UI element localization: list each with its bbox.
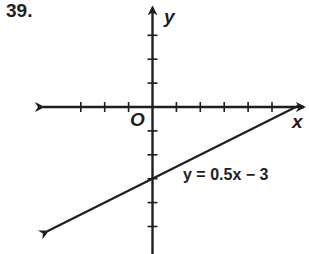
origin-label: O: [130, 109, 145, 130]
equation-label: y = 0.5x − 3: [183, 166, 269, 183]
x-axis-label: x: [291, 111, 304, 132]
y-axis-label: y: [163, 6, 176, 27]
coordinate-plane: x y O y = 0.5x − 3: [0, 0, 309, 254]
tick-marks: [81, 35, 272, 226]
axes: [43, 7, 304, 254]
